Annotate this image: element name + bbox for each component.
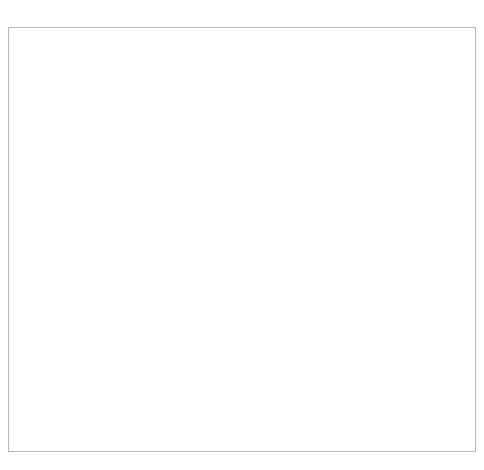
chart-outer-border	[8, 27, 476, 452]
chart-container: 0.0%0.2%0.4%0.6%0.8%1.0%1.2%1.4%1947年195…	[0, 0, 484, 470]
